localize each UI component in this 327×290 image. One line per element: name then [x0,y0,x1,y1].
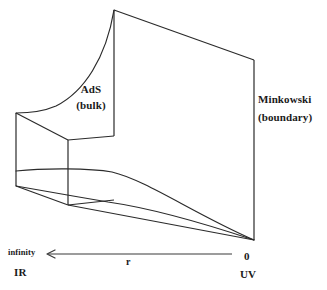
bulk-bottom-curve [16,186,254,240]
ir-box-top-receding-edge [68,136,114,140]
zero-label: 0 [244,250,250,263]
ads-cft-figure: AdS (bulk) Minkowski (boundary) infinity… [0,0,327,290]
ir-box-bottom-edge [16,186,68,205]
ads-label-line1: AdS [81,83,101,95]
minkowski-label-line1: Minkowski [258,93,311,105]
boundary-top-edge [114,10,254,60]
ads-label-line2: (bulk) [68,99,114,112]
ir-box-top-edge [16,113,68,140]
uv-label: UV [240,268,256,281]
ads-bulk-surface [16,10,254,240]
radial-axis [47,250,232,258]
boundary-bottom-edge [68,205,254,240]
minkowski-label-line2: (boundary) [258,111,312,124]
infinity-label: infinity [8,248,35,258]
ir-box-bottom-receding-edge [68,200,114,205]
ads-bulk-label: AdS (bulk) [68,83,114,111]
minkowski-boundary-plane [68,10,254,240]
figure-geometry [0,0,327,290]
ir-box [16,113,114,205]
minkowski-boundary-label: Minkowski (boundary) [258,93,312,123]
bulk-mid-curve [16,169,254,240]
radial-coordinate-label: r [126,256,131,268]
ir-label: IR [14,266,26,279]
